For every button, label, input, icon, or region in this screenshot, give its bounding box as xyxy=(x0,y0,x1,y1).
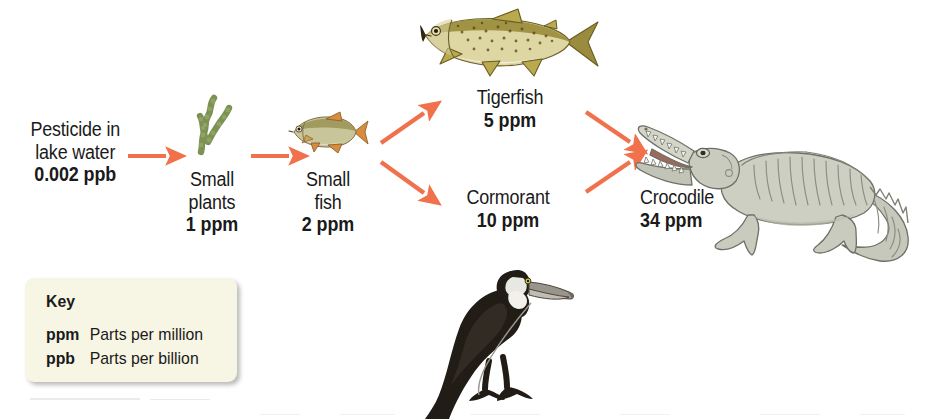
value-tigerfish: 5 ppm xyxy=(431,109,589,132)
value-cormorant: 10 ppm xyxy=(427,209,589,232)
label-lake-water-line2: lake water xyxy=(26,141,124,164)
value-lake-water: 0.002 ppb xyxy=(26,163,124,186)
label-small-fish: Small fish 2 ppm xyxy=(276,168,379,236)
scan-artifact xyxy=(470,414,540,415)
scan-artifact xyxy=(340,414,395,415)
scan-artifact xyxy=(620,414,670,415)
value-small-plants: 1 ppm xyxy=(160,213,263,236)
key-row-ppm: ppmParts per million xyxy=(46,325,203,345)
label-lake-water-line1: Pesticide in xyxy=(26,118,124,141)
label-lake-water: Pesticide in lake water 0.002 ppb xyxy=(26,118,124,186)
label-small-fish-line1: Small xyxy=(276,168,379,191)
label-crocodile-line1: Crocodile xyxy=(640,186,778,209)
key-abbr-ppb: ppb xyxy=(46,349,90,369)
key-meaning-ppb: Parts per billion xyxy=(90,349,199,368)
scan-artifact xyxy=(260,414,300,415)
tigerfish-icon xyxy=(418,6,602,82)
label-small-plants-line2: plants xyxy=(160,191,263,214)
label-cormorant-line1: Cormorant xyxy=(427,186,589,209)
value-crocodile: 34 ppm xyxy=(640,209,778,232)
scan-artifact xyxy=(860,414,905,415)
small-fish-icon xyxy=(286,108,370,156)
label-tigerfish-line1: Tigerfish xyxy=(431,86,589,109)
arrow-cormorant-to-crocodile xyxy=(586,162,630,192)
key-box: Key ppmParts per million ppbParts per bi… xyxy=(25,278,237,382)
key-row-ppb: ppbParts per billion xyxy=(46,349,199,369)
arrow-fish-to-cormorant xyxy=(381,162,424,193)
label-tigerfish: Tigerfish 5 ppm xyxy=(431,86,589,131)
key-title: Key xyxy=(46,292,75,312)
label-small-plants: Small plants 1 ppm xyxy=(160,168,263,236)
arrow-fish-to-tigerfish xyxy=(381,113,424,143)
arrow-tigerfish-to-crocodile xyxy=(586,112,630,142)
crocodile-icon xyxy=(630,95,930,275)
scan-artifact xyxy=(760,414,820,415)
label-cormorant: Cormorant 10 ppm xyxy=(427,186,589,231)
scan-artifact xyxy=(150,399,210,400)
algae-icon xyxy=(180,92,244,158)
scan-artifact xyxy=(30,398,140,400)
label-small-plants-line1: Small xyxy=(160,168,263,191)
biomagnification-diagram: Pesticide in lake water 0.002 ppb Small … xyxy=(0,0,932,420)
label-small-fish-line2: fish xyxy=(276,191,379,214)
cormorant-icon xyxy=(415,245,595,420)
value-small-fish: 2 ppm xyxy=(276,213,379,236)
key-meaning-ppm: Parts per million xyxy=(90,325,203,344)
key-abbr-ppm: ppm xyxy=(46,325,90,345)
label-crocodile: Crocodile 34 ppm xyxy=(640,186,778,231)
